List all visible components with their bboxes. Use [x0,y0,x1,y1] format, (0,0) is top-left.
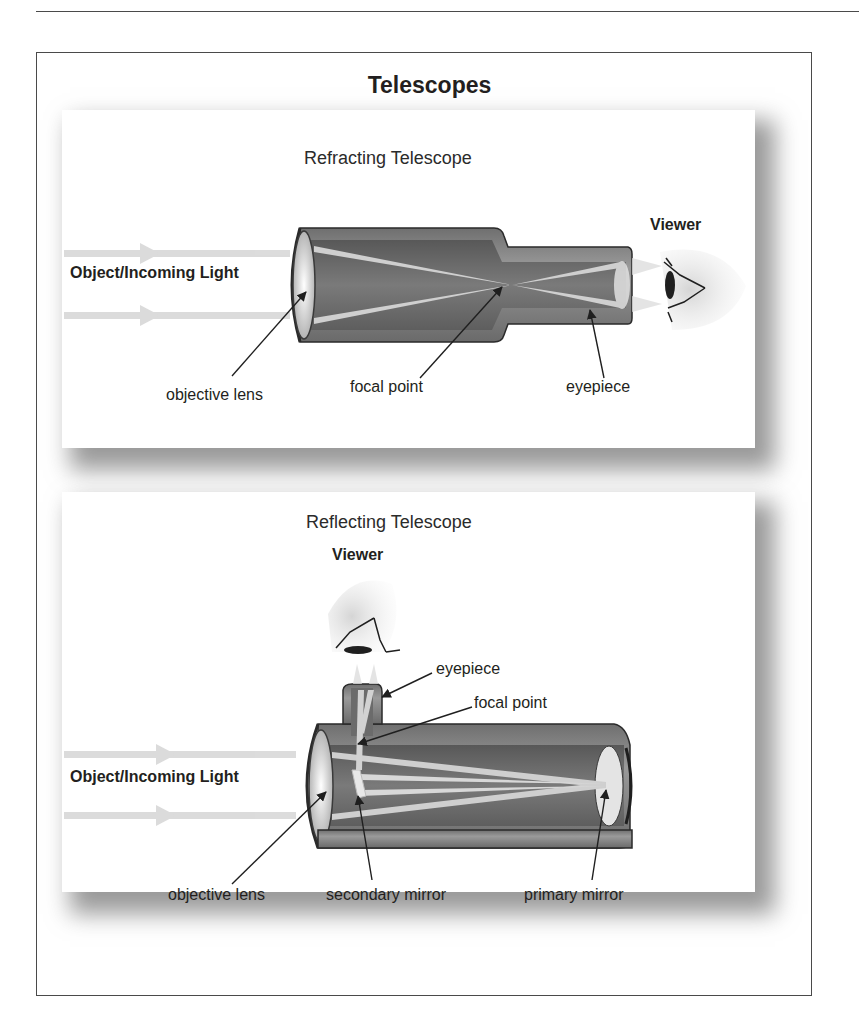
refracting-tube [292,228,632,342]
incoming-light-label-bottom: Object/Incoming Light [70,768,239,786]
reflecting-tube [307,684,632,848]
objective-lens-label-bottom: objective lens [168,886,265,904]
eyepiece-label-bottom: eyepiece [436,660,500,678]
exit-rays-top [632,258,662,312]
exit-rays-bottom [353,664,378,684]
viewer-label-bottom: Viewer [332,546,383,564]
secondary-mirror-label: secondary mirror [326,886,446,904]
incoming-light-label-top: Object/Incoming Light [70,264,239,282]
focal-point-label-top: focal point [350,378,423,396]
figure-title: Telescopes [0,72,859,99]
refracting-subtitle: Refracting Telescope [304,148,472,169]
eye-icon-bottom [328,581,400,654]
objective-lens-label-top: objective lens [166,386,263,404]
reflecting-subtitle: Reflecting Telescope [306,512,472,533]
primary-mirror-label: primary mirror [524,886,624,904]
viewer-label-top: Viewer [650,216,701,234]
incoming-light-rays-top [64,243,290,326]
eye-icon-top [660,250,746,330]
eyepiece-label-top: eyepiece [566,378,630,396]
focal-point-label-bottom: focal point [474,694,547,712]
